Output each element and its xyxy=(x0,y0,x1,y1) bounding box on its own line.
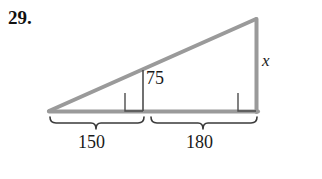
segment-right-label: 180 xyxy=(186,133,213,151)
hypotenuse-line xyxy=(49,19,256,111)
altitude-label: 75 xyxy=(146,69,164,87)
triangle-diagram xyxy=(0,0,322,179)
segment-left-label: 150 xyxy=(78,133,105,151)
altitude-foot-right-angle-icon xyxy=(125,93,143,111)
figure-root: 29. 75 x 150 180 xyxy=(0,0,322,179)
unknown-side-label-x: x xyxy=(262,52,270,69)
brace-left xyxy=(50,117,144,129)
triangle-right-angle-icon xyxy=(238,93,256,111)
brace-right xyxy=(151,117,257,129)
